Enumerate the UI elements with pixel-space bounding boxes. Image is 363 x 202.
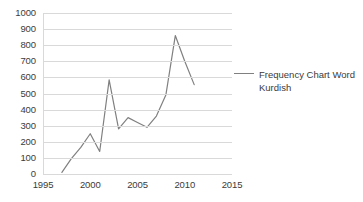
- x-tick-label: 2015: [212, 180, 252, 190]
- x-tick-label: 2005: [118, 180, 158, 190]
- legend-line-swatch: [234, 68, 254, 79]
- y-tick-label: 0: [2, 169, 36, 179]
- x-tick-label: 2000: [70, 180, 110, 190]
- y-tick-label: 1000: [2, 8, 36, 18]
- gridline: [43, 61, 232, 62]
- y-tick-label: 800: [2, 40, 36, 50]
- x-tick-label: 1995: [23, 180, 63, 190]
- gridline: [43, 142, 232, 143]
- gridline: [43, 45, 232, 46]
- gridline: [43, 174, 232, 175]
- gridline: [43, 158, 232, 159]
- y-tick-label: 600: [2, 72, 36, 82]
- legend-label: Frequency Chart Word Kurdish: [259, 68, 363, 94]
- gridline: [43, 126, 232, 127]
- y-tick-label: 200: [2, 137, 36, 147]
- gridline: [43, 13, 232, 14]
- y-tick-label: 700: [2, 56, 36, 66]
- y-tick-label: 300: [2, 121, 36, 131]
- gridline: [43, 77, 232, 78]
- y-tick-label: 500: [2, 89, 36, 99]
- chart-legend: Frequency Chart Word Kurdish: [234, 68, 363, 94]
- x-tick-label: 2010: [165, 180, 205, 190]
- y-tick-label: 900: [2, 24, 36, 34]
- y-tick-label: 100: [2, 153, 36, 163]
- line-chart: Frequency Chart Word Kurdish 01002003004…: [0, 0, 363, 202]
- y-tick-label: 400: [2, 105, 36, 115]
- gridline: [43, 29, 232, 30]
- gridline: [43, 94, 232, 95]
- plot-area: [43, 13, 232, 174]
- gridline: [43, 110, 232, 111]
